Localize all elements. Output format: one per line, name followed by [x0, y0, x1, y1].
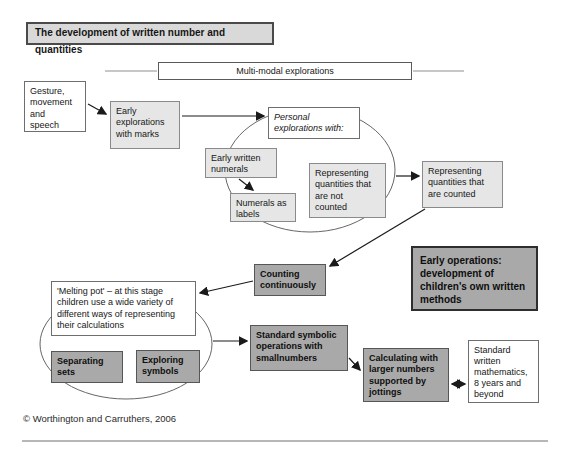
node-gesture-movement-speech: Gesture, movement and speech [24, 81, 86, 132]
node-personal-explorations-with: Personal explorations with: [268, 107, 360, 139]
arrow-standard-symbolic-to-calculating [349, 358, 360, 370]
node-separating-sets: Separating sets [51, 351, 123, 383]
arrow-early-written-to-numerals-labels [239, 179, 253, 190]
node-exploring-symbols: Exploring symbols [136, 350, 200, 383]
page-title: The development of written number and qu… [26, 22, 274, 45]
node-standard-symbolic-operations: Standard symbolic operations with smalln… [250, 325, 348, 371]
node-calculating-with-jottings: Calculating with larger numbers supporte… [363, 348, 449, 402]
node-representing-quantities-not-counted: Representing quantities that are not cou… [309, 163, 386, 218]
node-counting-continuously: Counting continuously [254, 264, 326, 296]
arrow-gesture-to-early-marks [88, 104, 106, 114]
node-early-written-numerals: Early written numerals [205, 148, 277, 178]
node-early-explorations-with-marks: Early explorations with marks [110, 101, 180, 149]
arrow-counting-to-melting-pot [200, 281, 253, 293]
node-representing-quantities-counted: Representing quantities that are counted [422, 161, 503, 208]
banner-multimodal-explorations: Multi-modal explorations [158, 62, 412, 80]
diagram-page: The development of written number and qu… [0, 0, 563, 450]
node-melting-pot: 'Melting pot' – at this stage children u… [51, 281, 196, 336]
node-early-operations: Early operations: development of childre… [411, 246, 538, 311]
copyright-text: © Worthington and Carruthers, 2006 [23, 413, 176, 424]
node-numerals-as-labels: Numerals as labels [230, 193, 296, 222]
node-standard-written-mathematics: Standard written mathematics, 8 years an… [468, 340, 539, 403]
